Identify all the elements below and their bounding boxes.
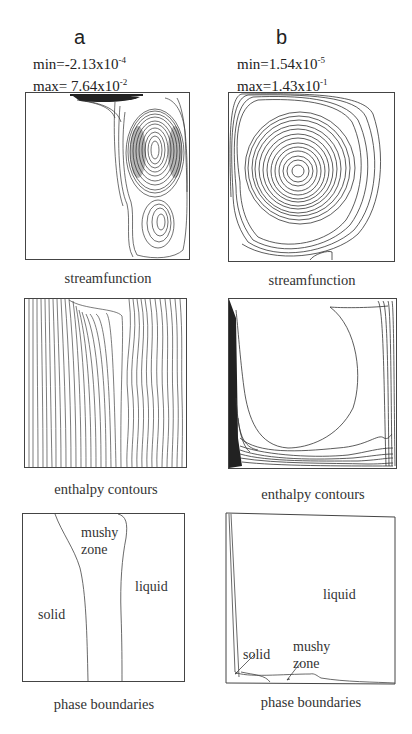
streamfunction-plot-b [228, 92, 396, 263]
enthalpy-contours-a [24, 298, 188, 469]
enthalpy-plot-a [24, 298, 188, 469]
region-label-solid-a: solid [38, 606, 65, 623]
caption-phase-a: phase boundaries [22, 696, 186, 713]
streamfunction-contours-b [228, 92, 396, 263]
caption-enthalpy-b: enthalpy contours [228, 486, 398, 503]
minmax-a: min=-2.13x10-4 max= 7.64x10-2 [33, 51, 127, 95]
region-label-solid-b: solid [243, 646, 270, 663]
min-value-a: min=-2.13x10-4 [33, 51, 127, 73]
column-label-a: a [74, 26, 85, 49]
column-label-b: b [276, 26, 287, 49]
streamfunction-plot-a [25, 92, 191, 261]
region-label-liquid-a: liquid [135, 578, 168, 595]
minmax-b: min=1.54x10-5 max=1.43x10-1 [237, 51, 328, 95]
region-label-liquid-b: liquid [323, 586, 356, 603]
caption-streamfunction-b: streamfunction [228, 272, 396, 289]
caption-phase-b: phase boundaries [225, 694, 397, 711]
enthalpy-contours-b [228, 298, 398, 470]
caption-enthalpy-a: enthalpy contours [24, 481, 188, 498]
min-value-b: min=1.54x10-5 [237, 51, 328, 73]
region-label-mushy-a: mushy zone [81, 524, 118, 558]
enthalpy-plot-b [228, 298, 398, 470]
caption-streamfunction-a: streamfunction [25, 270, 191, 287]
region-label-mushy-b: mushy zone [293, 638, 330, 672]
streamfunction-contours-a [25, 92, 191, 261]
